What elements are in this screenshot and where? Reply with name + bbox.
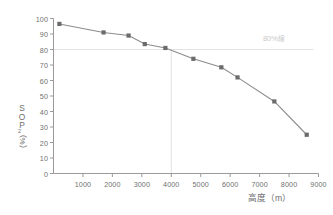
data-point-marker [163,46,167,50]
y-axis-tick-label: 0 [26,169,48,178]
data-point-marker [219,65,223,69]
y-axis-tick-label: 10 [26,154,48,163]
x-axis-title: 高度（m） [248,191,291,203]
y-axis-tick-label: 70 [26,61,48,70]
spo2-altitude-line-chart: 0102030405060708090100 10002000300040005… [0,0,333,215]
x-axis-tick-label: 8000 [281,180,297,189]
x-axis-tick-label: 2000 [104,180,120,189]
y-axis-title-unit: （%） [18,130,26,153]
threshold-annotation-suffix: 線 [278,35,285,42]
data-point-marker [57,22,61,26]
y-axis-tick-label: 90 [26,30,48,39]
x-axis-tick-label: 3000 [134,180,150,189]
y-axis-tick-label: 60 [26,76,48,85]
data-point-marker [143,42,147,46]
y-axis-title: S O P 2 （%） [14,104,30,145]
data-point-marker [272,99,276,103]
data-point-marker [191,57,195,61]
y-axis-tick-label: 100 [26,14,48,23]
threshold-80-annotation: 80%線 [263,33,285,43]
data-point-marker [235,75,239,79]
data-point-marker [101,30,105,34]
threshold-annotation-value: 80% [263,34,278,43]
x-axis-tick-label: 1000 [75,180,91,189]
data-point-marker [305,133,309,137]
data-point-marker [126,33,130,37]
x-axis-tick-label: 9000 [310,180,326,189]
x-axis-tick-label: 5000 [193,180,209,189]
reference-lines-group [54,50,314,174]
x-axis-tick-label: 4000 [163,180,179,189]
x-axis-tick-label: 7000 [251,180,267,189]
y-axis-tick-label: 50 [26,92,48,101]
y-axis-tick-label: 80 [26,45,48,54]
x-axis-tick-label: 6000 [222,180,238,189]
